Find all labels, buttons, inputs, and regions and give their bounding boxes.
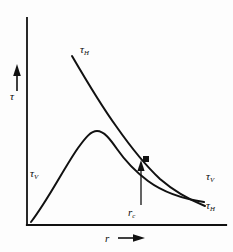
up-arrow-icon (13, 64, 21, 76)
curve-tau-h (72, 56, 205, 206)
curve-tau-v (31, 131, 204, 222)
curve-label-tau-v-right: τV (206, 171, 214, 182)
plot-canvas (0, 0, 233, 252)
rc-subscript: c (132, 212, 135, 219)
curve-label-tau-h-top: τH (80, 44, 89, 55)
tau-subscript: H (84, 49, 89, 56)
x-axis-label: r (105, 233, 109, 244)
curve-label-tau-v-left: τV (30, 168, 38, 179)
right-arrow-icon (133, 234, 145, 242)
y-axis-label: τ (10, 91, 14, 102)
critical-radius-label: rc (128, 207, 135, 218)
tau-subscript: V (34, 173, 38, 180)
tau-subscript: H (210, 205, 215, 212)
intersection-marker (143, 156, 149, 162)
tau-subscript: V (210, 176, 214, 183)
curve-label-tau-h-right: τH (206, 200, 215, 211)
tau-vs-r-figure: τH τV τV τH rc τ r (0, 0, 233, 252)
